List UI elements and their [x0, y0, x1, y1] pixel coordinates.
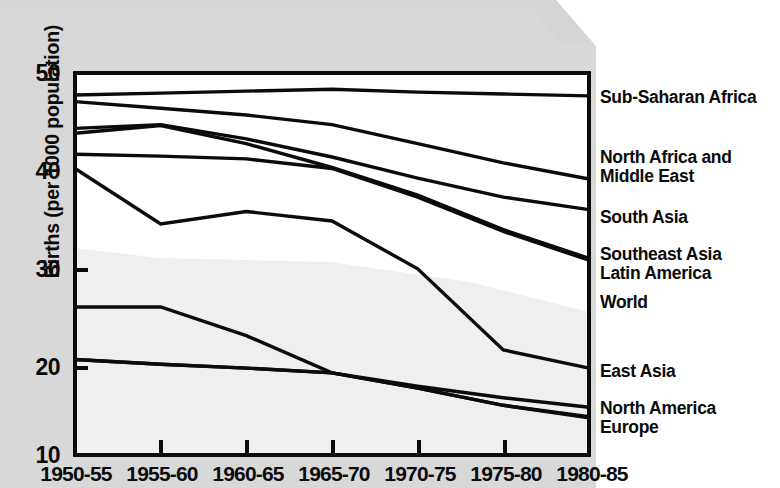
y-tick-label-50: 50	[4, 60, 60, 87]
y-tick-label-30: 30	[4, 256, 60, 283]
y-axis-title: Births (per 1000 population)	[41, 12, 64, 292]
x-tick-label-1980-85: 1980-85	[540, 462, 644, 486]
y-tick-label-40: 40	[4, 158, 60, 185]
series-label-south-asia: South Asia	[600, 208, 688, 227]
series-label-east-asia: East Asia	[600, 362, 675, 381]
series-label-southeast-asia-latin-america: Southeast Asia Latin America	[600, 245, 722, 283]
series-label-latin-america: Latin America	[600, 263, 711, 283]
series-label-north-america: North America	[600, 399, 716, 418]
series-label-north-africa-middle-east: North Africa and Middle East	[600, 148, 732, 186]
y-tick-label-20: 20	[4, 354, 60, 381]
series-label-europe: Europe	[600, 418, 659, 437]
series-label-north-africa-line1: North Africa and	[600, 147, 732, 167]
series-label-north-africa-line2: Middle East	[600, 166, 694, 186]
series-label-world: World	[600, 293, 648, 312]
series-label-southeast-asia: Southeast Asia	[600, 244, 722, 264]
series-label-sub-saharan-africa: Sub-Saharan Africa	[600, 88, 756, 107]
chart-figure: Births (per 1000 population) 50 40 30 20…	[0, 0, 780, 488]
